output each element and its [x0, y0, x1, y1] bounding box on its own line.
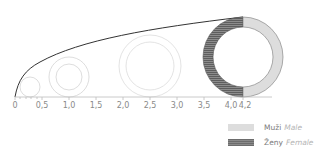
- tick-label: 2,5: [144, 101, 157, 110]
- donut-male-half: [243, 17, 283, 97]
- male-swatch: [228, 124, 254, 131]
- circle-1-0-outer: [49, 57, 89, 97]
- tick-label: 4,0: [225, 101, 238, 110]
- tick-label: 1,5: [90, 101, 103, 110]
- legend-item-female: Ženy Female: [228, 136, 313, 148]
- donut-female-half: [203, 17, 243, 97]
- legend-label-en: Female: [286, 138, 314, 147]
- legend-label: Muži: [264, 123, 281, 132]
- tick-label: 0,5: [36, 101, 49, 110]
- female-swatch: [228, 139, 254, 146]
- circle-2-5-outer: [119, 35, 181, 97]
- circle-2-5-inner: [126, 42, 174, 90]
- tick-label: 3,5: [198, 101, 211, 110]
- legend-label: Ženy: [264, 138, 283, 147]
- x-axis-ticks: [15, 97, 243, 100]
- x-axis-labels: 0 0,5 1,0 1,5 2,0 2,5 3,0 3,5 4,0 4,2: [12, 101, 251, 110]
- tick-label: 1,0: [63, 101, 76, 110]
- legend-label-en: Male: [284, 123, 302, 132]
- tick-label: 2,0: [117, 101, 130, 110]
- legend: Muži Male Ženy Female: [228, 121, 313, 151]
- circle-1-0-inner: [56, 64, 82, 90]
- tick-label: 3,0: [171, 101, 184, 110]
- circle-0-3: [20, 77, 40, 97]
- tick-label: 4,2: [239, 101, 252, 110]
- legend-item-male: Muži Male: [228, 121, 313, 133]
- tick-label: 0: [12, 101, 17, 110]
